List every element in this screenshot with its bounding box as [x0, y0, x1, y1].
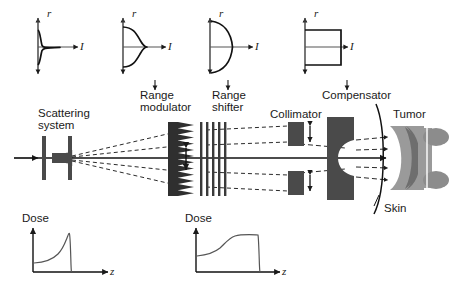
inset-2-y-axis-label: r	[132, 7, 137, 19]
label-range-shifter-line1: Range	[212, 89, 246, 101]
range-shifter-plate-1	[200, 122, 202, 196]
label-range-modulator-line1: Range	[140, 89, 174, 101]
label-compensator: Compensator	[322, 89, 391, 101]
dose-plot-1-x-label: z	[109, 265, 115, 277]
label-scattering-system-line1: Scattering	[38, 107, 90, 119]
scatterer-foil-first	[42, 136, 46, 180]
range-shifter-plate-4	[218, 122, 220, 196]
label-skin: Skin	[384, 202, 406, 214]
scatterer-central-block	[52, 153, 69, 163]
label-collimator: Collimator	[270, 108, 322, 120]
dose-plot-2-x-label: z	[281, 265, 287, 277]
figure-canvas: r I r I r I r I Scattering system Range …	[0, 0, 459, 284]
dose-plot-2-y-label: Dose	[185, 212, 212, 224]
label-range-modulator-line2: modulator	[140, 101, 191, 113]
label-scattering-system-line2: system	[38, 119, 74, 131]
inset-4-y-axis-label: r	[314, 7, 319, 19]
label-tumor: Tumor	[393, 108, 426, 120]
collimator-jaw-lower[interactable]	[288, 171, 304, 195]
range-modulator-base	[168, 122, 178, 196]
inset-1-y-axis-label: r	[47, 7, 52, 19]
dose-plot-1-y-label: Dose	[22, 212, 49, 224]
label-range-shifter-line2: shifter	[212, 101, 243, 113]
collimator-jaw-upper[interactable]	[288, 122, 304, 146]
range-shifter-plate-2	[206, 122, 208, 196]
range-shifter-plate-5	[224, 122, 226, 196]
inset-3-y-axis-label: r	[219, 7, 224, 19]
range-shifter-plate-3	[212, 122, 214, 196]
